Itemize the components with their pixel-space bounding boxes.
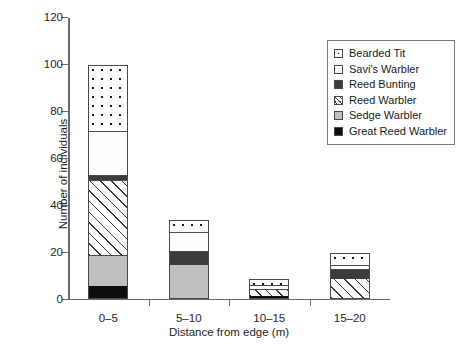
legend-item: Bearded Tit bbox=[334, 46, 447, 62]
bar-segment bbox=[89, 131, 127, 176]
legend-item-label: Reed Warbler bbox=[349, 95, 416, 106]
bar-segment bbox=[170, 251, 208, 265]
legend-swatch-icon bbox=[334, 96, 343, 105]
legend-item-label: Great Reed Warbler bbox=[349, 126, 447, 137]
bar-segment bbox=[89, 180, 127, 255]
y-axis-line bbox=[68, 18, 70, 300]
legend-swatch-icon bbox=[334, 80, 343, 89]
x-axis-tick-label: 15–20 bbox=[334, 312, 366, 324]
x-axis-title: Distance from edge (m) bbox=[68, 326, 390, 338]
legend-item: Sedge Warbler bbox=[334, 108, 447, 124]
chart-legend: Bearded TitSavi's WarblerReed BuntingRee… bbox=[327, 40, 455, 145]
x-axis-tick-mark bbox=[229, 300, 230, 306]
stacked-bar-chart: Number of individuals 020406080100120 0–… bbox=[0, 0, 460, 348]
y-axis-tick-label: 120 bbox=[44, 11, 63, 23]
bar-segment bbox=[331, 279, 369, 298]
x-axis-tick-label: 10–15 bbox=[253, 312, 285, 324]
legend-item-label: Reed Bunting bbox=[349, 79, 416, 90]
bar-segment bbox=[170, 232, 208, 251]
y-axis-tick-label: 100 bbox=[44, 58, 63, 70]
legend-swatch-icon bbox=[334, 111, 343, 120]
legend-item-label: Sedge Warbler bbox=[349, 110, 422, 121]
bar-segment bbox=[170, 265, 208, 298]
bar-segment bbox=[89, 65, 127, 131]
bar-5-10 bbox=[169, 220, 209, 299]
bar-10-15 bbox=[249, 279, 289, 299]
legend-item-label: Bearded Tit bbox=[349, 48, 405, 59]
bar-segment bbox=[331, 253, 369, 265]
x-axis-tick-label: 5–10 bbox=[176, 312, 202, 324]
x-axis-tick-mark bbox=[149, 300, 150, 306]
bar-segment bbox=[89, 255, 127, 286]
legend-item: Reed Warbler bbox=[334, 93, 447, 109]
bar-segment bbox=[89, 286, 127, 298]
legend-item: Great Reed Warbler bbox=[334, 124, 447, 140]
y-axis-tick-label: 80 bbox=[50, 105, 63, 117]
legend-item: Savi's Warbler bbox=[334, 62, 447, 78]
bar-15-20 bbox=[330, 253, 370, 299]
bar-segment bbox=[250, 289, 288, 296]
bar-segment bbox=[250, 296, 288, 297]
legend-item: Reed Bunting bbox=[334, 77, 447, 93]
legend-swatch-icon bbox=[334, 49, 343, 58]
x-axis-tick-mark bbox=[310, 300, 311, 306]
y-axis-tick-label: 60 bbox=[50, 152, 63, 164]
x-axis-tick-label: 0–5 bbox=[99, 312, 118, 324]
legend-swatch-icon bbox=[334, 127, 343, 136]
y-axis-tick-label: 40 bbox=[50, 199, 63, 211]
legend-swatch-icon bbox=[334, 65, 343, 74]
y-axis-tick-label: 20 bbox=[50, 246, 63, 258]
legend-item-label: Savi's Warbler bbox=[349, 64, 419, 75]
bar-0-5 bbox=[88, 65, 128, 299]
bar-segment bbox=[331, 269, 369, 278]
bar-segment bbox=[170, 220, 208, 232]
y-axis-tick-label: 0 bbox=[57, 293, 63, 305]
